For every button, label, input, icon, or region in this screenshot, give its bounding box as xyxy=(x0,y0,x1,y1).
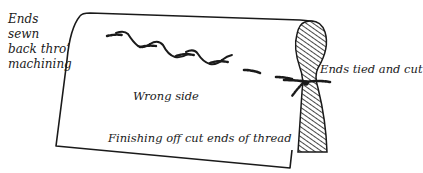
ends-sewn-label: Ends sewn back thro’ machining xyxy=(8,12,70,72)
ends-tied-label: Ends tied and cut xyxy=(320,62,423,76)
wrong-side-label: Wrong side xyxy=(133,89,199,103)
caption-label: Finishing off cut ends of thread xyxy=(108,131,292,145)
stitching-line-icon xyxy=(107,32,292,79)
